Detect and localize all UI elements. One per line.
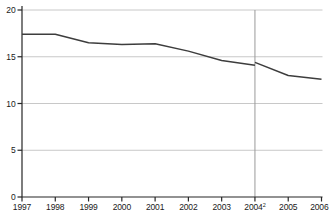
y-axis-tick-label: 10 xyxy=(6,99,16,109)
x-axis-tick-label: 20042 xyxy=(244,202,265,212)
x-axis-tick-label: 2001 xyxy=(146,202,165,212)
x-axis-tick-label: 2005 xyxy=(279,202,298,212)
line-chart: 0510152019971998199920002001200220032004… xyxy=(0,0,329,216)
data-line-post-break xyxy=(255,62,322,79)
x-axis-tick-label: 2006 xyxy=(310,202,329,212)
x-axis-tick-label: 1999 xyxy=(79,202,98,212)
data-line-pre-break xyxy=(22,34,255,65)
x-axis-tick-label: 2000 xyxy=(113,202,132,212)
x-axis-tick-label: 1998 xyxy=(46,202,65,212)
y-axis-tick-label: 15 xyxy=(6,52,16,62)
y-axis-tick-label: 5 xyxy=(11,145,16,155)
footnote-marker: 2 xyxy=(263,202,266,208)
chart-container: 0510152019971998199920002001200220032004… xyxy=(0,0,329,216)
x-axis-tick-label: 1997 xyxy=(13,202,32,212)
y-axis-tick-label: 0 xyxy=(11,192,16,202)
x-axis-tick-label: 2003 xyxy=(213,202,232,212)
x-axis-tick-label: 2002 xyxy=(179,202,198,212)
y-axis-tick-label: 20 xyxy=(6,5,16,15)
